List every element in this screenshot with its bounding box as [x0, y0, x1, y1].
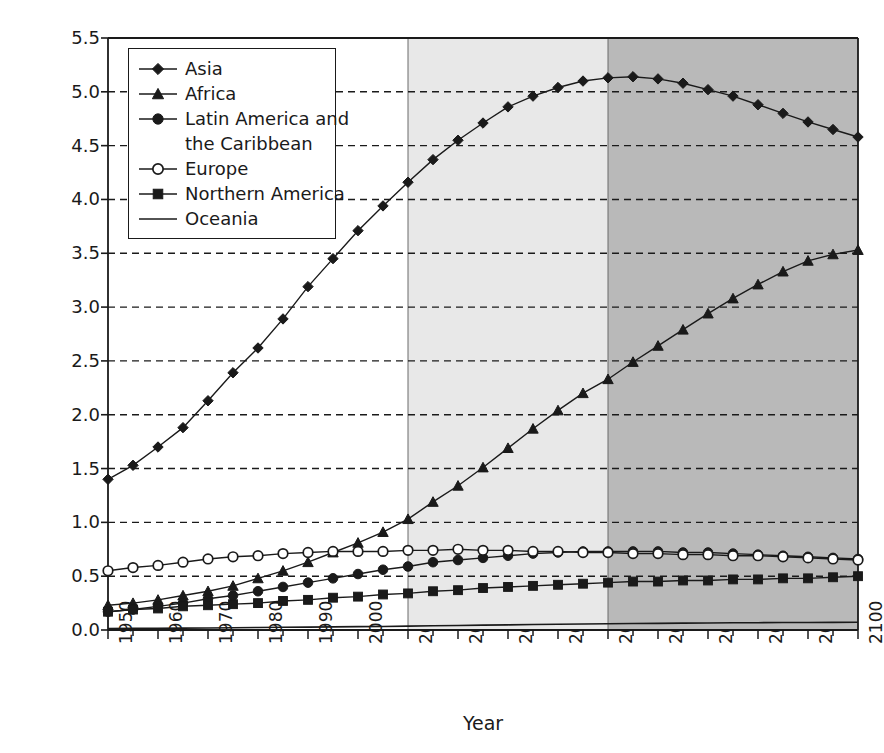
data-point — [453, 544, 463, 554]
data-point — [579, 579, 588, 588]
data-point — [104, 607, 113, 616]
legend-item: Oceania — [137, 206, 327, 231]
data-point — [554, 580, 563, 589]
data-point — [403, 562, 413, 572]
data-point — [778, 552, 788, 562]
data-point — [303, 548, 313, 558]
data-point — [128, 563, 138, 573]
shaded-band-projection-near — [408, 38, 608, 630]
data-point — [329, 593, 338, 602]
data-point — [404, 589, 413, 598]
data-point — [253, 586, 263, 596]
data-point — [528, 547, 538, 557]
legend-item: the Caribbean — [137, 131, 327, 156]
legend-marker-open-circle-icon — [137, 159, 179, 179]
data-point — [853, 555, 863, 565]
legend-marker-filled-triangle-icon — [137, 84, 179, 104]
chart-figure: Estimated and projected population (bill… — [0, 0, 884, 753]
legend-label: Africa — [179, 84, 236, 104]
data-point — [378, 527, 388, 537]
legend-item: Europe — [137, 156, 327, 181]
data-point — [803, 553, 813, 563]
legend-marker-none-icon — [137, 134, 179, 154]
data-point — [729, 575, 738, 584]
data-point — [179, 602, 188, 611]
data-point — [654, 577, 663, 586]
chart-legend: AsiaAfricaLatin America andthe Caribbean… — [128, 48, 336, 239]
data-point — [504, 583, 513, 592]
data-point — [378, 547, 388, 557]
legend-marker-filled-diamond-icon — [137, 59, 179, 79]
legend-label: Europe — [179, 159, 248, 179]
data-point — [553, 547, 563, 557]
data-point — [253, 551, 263, 561]
data-point — [354, 592, 363, 601]
data-point — [454, 586, 463, 595]
data-point — [478, 546, 488, 556]
data-point — [429, 587, 438, 596]
data-point — [754, 575, 763, 584]
data-point — [779, 574, 788, 583]
data-point — [703, 550, 713, 560]
data-point — [479, 584, 488, 593]
data-point — [254, 599, 263, 608]
legend-marker-filled-circle-icon — [137, 109, 179, 129]
legend-marker-line-only-icon — [137, 209, 179, 229]
data-point — [678, 550, 688, 560]
legend-marker-filled-square-icon — [137, 184, 179, 204]
legend-item: Africa — [137, 81, 327, 106]
data-point — [829, 573, 838, 582]
data-point — [704, 576, 713, 585]
data-point — [103, 474, 113, 484]
data-point — [303, 578, 313, 588]
legend-label: Latin America and — [179, 109, 349, 129]
data-point — [629, 577, 638, 586]
data-point — [304, 595, 313, 604]
data-point — [453, 555, 463, 565]
data-point — [129, 605, 138, 614]
data-point — [503, 546, 513, 556]
data-point — [203, 554, 213, 564]
data-point — [328, 547, 338, 557]
legend-item: Asia — [137, 56, 327, 81]
data-point — [353, 569, 363, 579]
data-point — [379, 590, 388, 599]
data-point — [153, 561, 163, 571]
legend-label: the Caribbean — [179, 134, 313, 154]
legend-item: Latin America and — [137, 106, 327, 131]
data-point — [303, 557, 313, 567]
data-point — [279, 597, 288, 606]
legend-label: Asia — [179, 59, 223, 79]
data-point — [854, 572, 863, 581]
data-point — [428, 546, 438, 556]
data-point — [378, 565, 388, 575]
data-point — [628, 549, 638, 559]
data-point — [804, 574, 813, 583]
data-point — [228, 591, 238, 601]
data-point — [229, 600, 238, 609]
data-point — [679, 576, 688, 585]
data-point — [353, 547, 363, 557]
data-point — [578, 548, 588, 558]
data-point — [529, 581, 538, 590]
data-point — [178, 557, 188, 567]
data-point — [728, 551, 738, 561]
legend-label: Northern America — [179, 184, 345, 204]
data-point — [278, 549, 288, 559]
data-point — [753, 551, 763, 561]
data-point — [403, 546, 413, 556]
data-point — [204, 601, 213, 610]
data-point — [603, 548, 613, 558]
data-point — [278, 582, 288, 592]
data-point — [278, 566, 288, 576]
data-point — [428, 557, 438, 567]
data-point — [103, 566, 113, 576]
legend-label: Oceania — [179, 209, 259, 229]
data-point — [828, 554, 838, 564]
data-point — [653, 549, 663, 559]
data-point — [228, 552, 238, 562]
data-point — [154, 604, 163, 613]
legend-item: Northern America — [137, 181, 327, 206]
shaded-band-projection-far — [608, 38, 858, 630]
data-point — [328, 574, 338, 584]
